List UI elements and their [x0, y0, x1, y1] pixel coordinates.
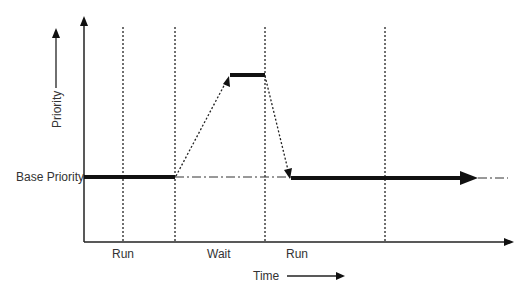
base-priority-label: Base Priority: [16, 170, 84, 184]
priority-diagram: [0, 0, 524, 292]
run-arrowhead-icon: [460, 171, 478, 185]
y-axis-label: Priority: [50, 91, 64, 128]
phase-label-wait: Wait: [207, 247, 231, 261]
phase-label-run-2: Run: [286, 247, 308, 261]
decay-arrow: [265, 76, 288, 170]
y-axis-arrow-icon: [80, 16, 88, 26]
boost-arrowhead-icon: [223, 76, 230, 87]
boost-arrow: [176, 80, 227, 176]
x-axis-arrow-icon: [504, 238, 514, 246]
x-axis-label: Time: [253, 269, 279, 283]
time-label-arrowhead-icon: [336, 272, 345, 280]
priority-label-arrowhead-icon: [52, 28, 60, 38]
phase-label-run-1: Run: [112, 247, 134, 261]
